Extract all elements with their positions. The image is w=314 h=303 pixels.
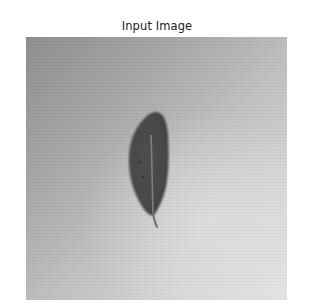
- leaf-icon: [26, 37, 287, 300]
- image-title: Input Image: [0, 19, 314, 33]
- input-image: [26, 37, 287, 300]
- figure: Input Image: [0, 0, 314, 303]
